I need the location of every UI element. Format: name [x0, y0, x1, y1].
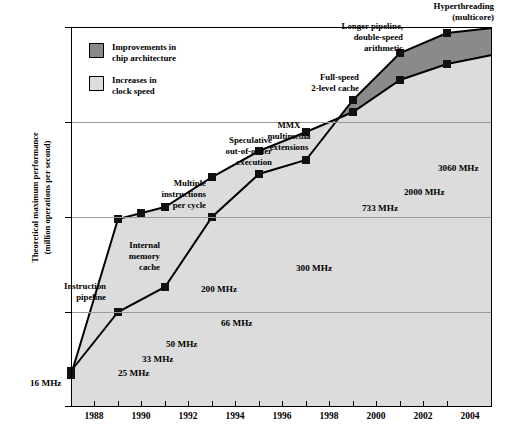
x-tick-mark-1989 — [118, 401, 119, 407]
data-label-50mhz: 50 MHz — [166, 339, 197, 349]
y-tick-mark-1000 — [65, 122, 71, 123]
x-tick-label-1998: 1998 — [307, 411, 351, 421]
plot-frame-top — [71, 27, 492, 28]
data-label-25mhz: 25 MHz — [118, 368, 149, 378]
x-tick-mark-2002 — [423, 401, 424, 407]
y-tick-mark-10 — [65, 312, 71, 313]
legend-item-architecture: Improvements in chip architecture — [89, 42, 176, 65]
x-tick-mark-1996 — [282, 401, 283, 407]
annotation-hyperthreading: Hyperthreading (multicore) — [357, 1, 494, 23]
x-tick-mark-2003 — [447, 401, 448, 407]
y-axis-title-line2: (million operations per second) — [41, 82, 53, 312]
x-tick-mark-1995 — [259, 401, 260, 407]
cpu-performance-chart: Theoretical maximum performance (million… — [0, 0, 506, 432]
plot-frame-right — [491, 27, 492, 407]
x-tick-mark-2000 — [376, 401, 377, 407]
plot-frame-left — [71, 27, 72, 407]
chart-legend: Improvements in chip architecture Increa… — [89, 42, 176, 107]
x-tick-mark-1999 — [353, 401, 354, 407]
annotation-multiple-instructions: Multiple instructions per cycle — [88, 178, 206, 211]
x-tick-label-1988: 1988 — [72, 411, 116, 421]
x-tick-mark-1993 — [212, 401, 213, 407]
x-tick-mark-2001 — [400, 401, 401, 407]
x-tick-label-1996: 1996 — [260, 411, 304, 421]
x-tick-mark-1992 — [188, 401, 189, 407]
x-tick-mark-1988 — [94, 401, 95, 407]
x-tick-label-1994: 1994 — [213, 411, 257, 421]
annotation-instruction-pipeline: Instruction pipeline — [0, 281, 106, 303]
data-label-733mhz: 733 MHz — [362, 203, 398, 213]
legend-label-clock-speed: Increases in clock speed — [112, 75, 157, 98]
x-tick-label-2004: 2004 — [448, 411, 492, 421]
y-tick-mark-100 — [65, 217, 71, 218]
legend-swatch-architecture — [89, 43, 104, 58]
gridline-10 — [71, 312, 492, 313]
clock-speed-area — [71, 55, 492, 406]
y-axis-title: Theoretical maximum performance (million… — [29, 82, 54, 312]
annotation-internal-memory-cache: Internal memory cache — [70, 240, 160, 273]
x-tick-mark-1990 — [141, 401, 142, 407]
x-tick-mark-1991 — [165, 401, 166, 407]
x-tick-mark-1997 — [306, 401, 307, 407]
data-label-2000mhz: 2000 MHz — [404, 187, 445, 197]
data-label-16mhz: 16 MHz — [30, 378, 61, 388]
legend-swatch-clock-speed — [89, 76, 104, 91]
annotation-longer-pipeline: Longer pipeline, double-speed arithmetic — [285, 21, 403, 54]
y-axis-title-line1: Theoretical maximum performance — [29, 82, 41, 312]
x-tick-label-1992: 1992 — [166, 411, 210, 421]
gridline-100 — [71, 217, 492, 218]
legend-label-architecture: Improvements in chip architecture — [112, 42, 176, 65]
x-tick-mark-1994 — [235, 401, 236, 407]
data-label-66mhz: 66 MHz — [221, 318, 252, 328]
y-tick-mark-10000 — [65, 27, 71, 28]
data-label-33mhz: 33 MHz — [142, 354, 173, 364]
data-label-300mhz: 300 MHz — [296, 263, 332, 273]
data-label-200mhz: 200 MHz — [201, 284, 237, 294]
x-tick-label-2000: 2000 — [354, 411, 398, 421]
x-tick-label-1990: 1990 — [119, 411, 163, 421]
x-tick-mark-1998 — [329, 401, 330, 407]
y-tick-mark-1 — [65, 406, 71, 407]
legend-item-clock-speed: Increases in clock speed — [89, 75, 176, 98]
data-label-3060mhz: 3060 MHz — [438, 163, 479, 173]
annotation-full-speed-cache: Full-speed 2-level cache — [256, 72, 359, 94]
annotation-mmx-extensions: MMX multimedia extensions — [245, 120, 333, 153]
x-tick-label-2002: 2002 — [401, 411, 445, 421]
